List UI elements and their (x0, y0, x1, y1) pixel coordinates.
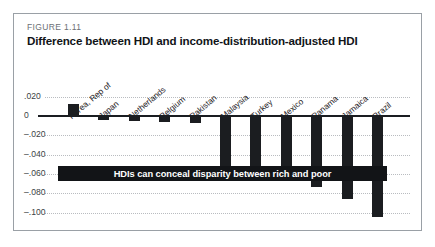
figure-card: FIGURE 1.11 Difference between HDI and i… (13, 13, 422, 231)
category-label: Malaysia (218, 92, 250, 121)
category-label: Panama (309, 93, 339, 121)
bars-group: Korea, Rep ofJapanNetherlandsBelgiumPaki… (45, 14, 410, 232)
chart-plot-area: .0200–.020–.040–.060–.080–.100 Korea, Re… (14, 14, 423, 232)
category-label: Belgium (157, 94, 187, 121)
annotation-banner: HDIs can conceal disparity between rich … (58, 166, 387, 181)
bar (220, 116, 231, 169)
category-label: Pakistan (188, 93, 219, 121)
bar (281, 116, 292, 168)
category-label: Jamaica (340, 93, 370, 121)
annotation-banner-text: HDIs can conceal disparity between rich … (114, 169, 332, 179)
bar (342, 116, 353, 199)
category-label: Mexico (279, 96, 306, 121)
bar (250, 116, 261, 167)
